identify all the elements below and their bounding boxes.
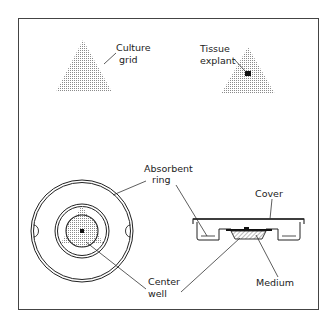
tissue-explant-label-line1: Tissue [199, 43, 230, 54]
organ-culture-dish-diagram: Culture grid Tissue explant Absorbent ri… [0, 0, 333, 329]
cover-label: Cover [255, 188, 283, 199]
medium-leader [256, 235, 278, 277]
absorbent-ring-leader-top [113, 181, 146, 195]
center-well-leader-top [86, 242, 146, 289]
culture-grid-label-line2: grid [119, 54, 138, 65]
medium-label: Medium [256, 277, 294, 288]
culture-grid-label-line1: Culture [116, 42, 151, 53]
center-well-leader-side [181, 238, 240, 292]
center-well-label-line2: well [148, 288, 167, 299]
top-view-explant [80, 229, 84, 233]
absorbent-ring-label-line2: ring [152, 174, 171, 185]
center-well-label-line1: Center [148, 276, 180, 287]
cover-leader [270, 199, 272, 219]
absorbent-ring-label-line1: Absorbent [144, 163, 193, 174]
dish-side-view [193, 219, 304, 240]
culture-grid-leader [104, 53, 116, 64]
absorbent-ring-leader-side [176, 185, 207, 236]
culture-grid-triangle [56, 40, 112, 92]
tissue-explant-label-line2: explant [200, 55, 236, 66]
medium-well [231, 231, 266, 239]
